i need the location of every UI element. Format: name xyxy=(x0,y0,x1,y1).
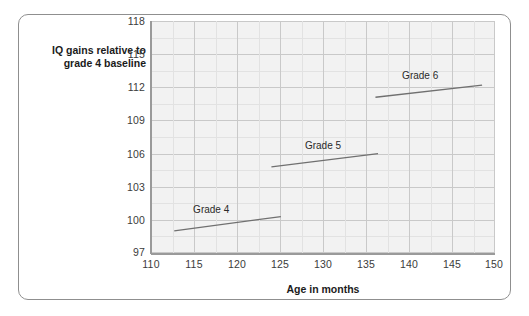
y-tick-label-115: 115 xyxy=(105,48,145,60)
x-tick-label-120: 120 xyxy=(217,258,257,270)
x-tick-label-140: 140 xyxy=(389,258,429,270)
y-tick-label-100: 100 xyxy=(105,214,145,226)
x-tick-label-115: 115 xyxy=(174,258,214,270)
series-lines-layer xyxy=(151,21,495,253)
y-tick-label-112: 112 xyxy=(105,81,145,93)
x-axis-spine xyxy=(151,253,495,255)
series-line-grade-6 xyxy=(375,85,482,97)
plot-area: Grade 4 Grade 5 Grade 6 xyxy=(151,21,495,253)
series-label-grade-5: Grade 5 xyxy=(305,140,341,151)
series-line-grade-4 xyxy=(174,217,281,231)
series-line-grade-5 xyxy=(271,154,378,167)
y-tick-label-118: 118 xyxy=(105,15,145,27)
x-axis-title: Age in months xyxy=(151,283,495,295)
x-axis-tick-labels: 110 115 120 125 130 135 140 145 150 xyxy=(0,258,529,274)
series-label-grade-4: Grade 4 xyxy=(193,204,229,215)
series-label-grade-6: Grade 6 xyxy=(402,70,438,81)
x-tick-label-130: 130 xyxy=(303,258,343,270)
y-tick-label-109: 109 xyxy=(105,114,145,126)
x-tick-label-125: 125 xyxy=(260,258,300,270)
y-axis-spine xyxy=(150,21,152,254)
x-tick-label-135: 135 xyxy=(346,258,386,270)
x-tick-label-110: 110 xyxy=(131,258,171,270)
x-tick-label-145: 145 xyxy=(432,258,472,270)
y-tick-label-97: 97 xyxy=(105,246,145,258)
y-tick-label-106: 106 xyxy=(105,148,145,160)
x-tick-label-150: 150 xyxy=(474,258,514,270)
figure-root: IQ gains relative to grade 4 baseline xyxy=(0,0,529,316)
y-tick-label-103: 103 xyxy=(105,181,145,193)
